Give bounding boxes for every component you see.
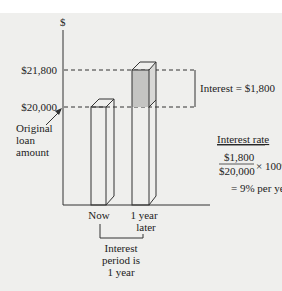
rate-multiplier: × 100% <box>256 160 282 172</box>
interest-diagram: $ $21,800 $20,000 Original loan amount <box>0 0 282 291</box>
tick-21800: $21,800 <box>21 64 57 76</box>
bar-now <box>91 99 114 205</box>
category-now: Now <box>88 209 109 221</box>
rate-numerator: $1,800 <box>224 151 255 163</box>
bar-later <box>132 62 156 205</box>
interest-label: Interest = $1,800 <box>200 82 275 94</box>
period-label-3: 1 year <box>107 266 135 278</box>
rate-result: = 9% per year <box>231 182 282 194</box>
period-label-2: period is <box>102 254 140 266</box>
y-axis-label: $ <box>60 16 66 28</box>
original-label-2: loan <box>16 134 35 146</box>
diagram-canvas: $ $21,800 $20,000 Original loan amount <box>0 0 282 291</box>
category-later-2: later <box>136 221 156 233</box>
category-later-1: 1 year <box>130 209 158 221</box>
original-label-3: amount <box>16 146 49 158</box>
tick-20000: $20,000 <box>21 101 57 113</box>
rate-denominator: $20,000 <box>219 165 255 177</box>
original-label-1: Original <box>16 122 53 134</box>
rate-title: Interest rate <box>217 133 269 145</box>
period-label-1: Interest <box>105 242 138 254</box>
